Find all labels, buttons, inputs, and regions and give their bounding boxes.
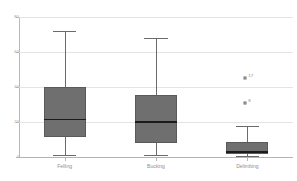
x-axis-tick-mark: [65, 157, 66, 161]
median-line: [226, 151, 268, 153]
outlier-label: 17: [248, 73, 253, 78]
whisker-lower-cap: [236, 156, 260, 157]
boxplot-chart: 806040200 FellingBuckingDelimbing 178: [0, 0, 297, 181]
box-iqr: [135, 95, 177, 143]
outlier-marker[interactable]: [244, 77, 247, 80]
x-axis-label-felling: Felling: [57, 163, 72, 170]
y-axis-tick-mark: [16, 52, 19, 53]
y-axis-tick: 40: [0, 84, 19, 90]
whisker-upper-cap: [53, 31, 77, 32]
outlier-marker[interactable]: [244, 101, 247, 104]
median-line: [44, 119, 86, 121]
box-iqr: [226, 142, 268, 154]
y-axis-tick-mark: [16, 87, 19, 88]
box-iqr: [44, 87, 86, 137]
x-axis-label-delimbing: Delimbing: [236, 163, 258, 170]
y-axis-tick: 20: [0, 119, 19, 125]
whisker-lower-cap: [144, 155, 168, 156]
outlier-label: 8: [248, 98, 250, 103]
whisker-upper-cap: [144, 38, 168, 39]
y-axis-tick: 60: [0, 49, 19, 55]
median-line: [135, 121, 177, 123]
whisker-lower-cap: [53, 155, 77, 156]
y-axis-tick: 80: [0, 14, 19, 20]
y-axis-tick: 0: [0, 154, 19, 160]
y-axis-tick-mark: [16, 17, 19, 18]
x-axis-tick-mark: [247, 157, 248, 161]
whisker-upper-stem: [65, 31, 66, 87]
whisker-lower-stem: [65, 137, 66, 155]
whisker-lower-stem: [156, 143, 157, 155]
y-axis-tick-mark: [16, 122, 19, 123]
x-axis-label-bucking: Bucking: [147, 163, 165, 170]
x-axis-tick-mark: [156, 157, 157, 161]
whisker-upper-stem: [247, 126, 248, 142]
whisker-upper-stem: [156, 38, 157, 95]
whisker-upper-cap: [236, 126, 260, 127]
gridline: [19, 17, 293, 18]
y-axis-tick-mark: [16, 157, 19, 158]
